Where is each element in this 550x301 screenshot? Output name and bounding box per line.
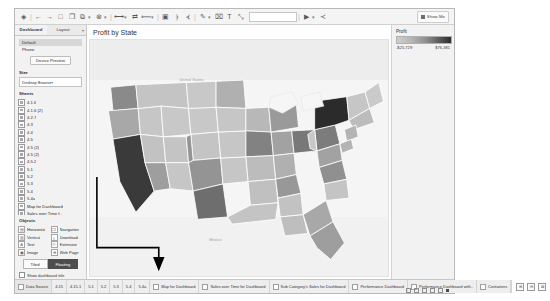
sheet-list-item-label: 5.3 (27, 181, 33, 186)
sheet-list-item[interactable]: 4.5 (18, 136, 83, 143)
object-item-image[interactable]: ▣Image (18, 248, 51, 256)
object-item-web-page[interactable]: ⊕Web Page (51, 248, 84, 256)
sheet-list-item-label: 4.4 (27, 130, 33, 135)
object-item-text[interactable]: AText (18, 241, 51, 249)
sheet-list-item-label: 4.5 (27, 137, 33, 142)
worksheet-icon (18, 144, 25, 151)
sheet-list-item[interactable]: 5.1 (18, 166, 83, 173)
sheet-list-item[interactable]: 4.1.6 (2) (18, 106, 83, 113)
object-item-label: Text (27, 242, 35, 247)
forward-arrow-icon[interactable]: → (44, 11, 55, 22)
share-icon[interactable]: ≺ (317, 11, 328, 22)
state-missouri (246, 156, 276, 182)
tiled-button[interactable]: Tiled (23, 259, 48, 269)
sort-ascending-icon[interactable]: ⦒ (171, 11, 182, 22)
sheet-list-item[interactable]: 4.3 (18, 121, 83, 128)
sheet-list-item[interactable]: 5.3 (18, 180, 83, 187)
sheet-tab-icon (480, 284, 486, 290)
highlight-icon[interactable]: ✎ (197, 11, 208, 22)
dashboard-canvas[interactable]: Profit by State (87, 25, 392, 279)
clear-sheet-icon[interactable]: ⊗ (93, 11, 104, 22)
worksheet-icon (18, 99, 25, 106)
main-toolbar: ◈ | ← → □ ❐ ⧉ ▾ ⊗ ▾ | ⟷ ▾ ⇄ ⟸ ▾ | ▣ ⦒ ⦓ … (15, 9, 454, 25)
sheet-list-item[interactable]: 5.2 (18, 173, 83, 180)
sheet-list-item[interactable]: 4.1.6 (18, 99, 83, 106)
sheet-list-item[interactable]: Map for Dashboard (18, 202, 83, 209)
text-icon: A (18, 241, 25, 248)
horizontal-container-icon: ▤ (18, 226, 25, 233)
new-worksheet-icon[interactable]: ⧉ (77, 11, 88, 22)
state-mississippi (278, 193, 303, 217)
connect-data-icon[interactable]: ❐ (66, 11, 77, 22)
sheet-list-item-label: 4.1.6 (27, 100, 36, 105)
legend-title: Profit (396, 29, 450, 34)
fix-axes-icon[interactable]: ⤡ (235, 11, 246, 22)
state-south-dakota-w (189, 107, 219, 134)
floating-button[interactable]: Floating (48, 259, 79, 269)
sheet-list-item-label: 4.5.2 (27, 159, 36, 164)
map-view[interactable]: United States Mexico (89, 39, 389, 277)
tableau-window: ◈ | ← → □ ❐ ⧉ ▾ ⊗ ▾ | ⟷ ▾ ⇄ ⟸ ▾ | ▣ ⦒ ⦓ … (14, 8, 455, 294)
sheet-tab[interactable]: Containers (477, 280, 511, 293)
sheet-list-item[interactable]: 4.5 (2) (18, 151, 83, 158)
sheet-list-item[interactable]: 4.2.7 (18, 114, 83, 121)
object-item-navigation[interactable]: ❐Navigation (51, 226, 84, 234)
device-item-default[interactable]: Default (19, 39, 82, 46)
object-item-label: Extension (60, 242, 78, 247)
new-story-icon[interactable]: ⊠ (538, 283, 546, 291)
redo-icon[interactable]: ⟸ (140, 11, 151, 22)
status-dot-5 (438, 288, 443, 293)
size-select[interactable]: Desktop Browser (1000 x 8.. ▾ (19, 77, 82, 87)
show-me-icon (421, 15, 425, 19)
state-utah (163, 137, 188, 163)
sheet-list-item[interactable]: 4.5.2 (18, 158, 83, 165)
device-preview-button[interactable]: Device Preview (30, 56, 71, 65)
tableau-logo-icon[interactable]: ◈ (18, 11, 29, 22)
sheet-list-item-label: 5.1 (27, 167, 33, 172)
object-item-horizontal[interactable]: ▤Horizontal (18, 226, 51, 234)
sheet-list-item[interactable]: 5.4a (18, 195, 83, 202)
undo-icon[interactable]: ⟷ (113, 11, 124, 22)
duplicate-icon[interactable]: ▣ (160, 11, 171, 22)
swap-rows-columns-icon[interactable]: ⇄ (129, 11, 140, 22)
dashboard-side-panel: Dashboard Layout ▾ Default Phone Device … (15, 25, 87, 279)
sheet-tab-label: Containers (488, 284, 507, 289)
group-members-icon[interactable]: ⌧ (213, 11, 224, 22)
legend-max-value: $76,381 (435, 45, 450, 50)
show-labels-icon[interactable]: T (224, 11, 235, 22)
status-dot-2 (414, 288, 419, 293)
fit-select[interactable] (249, 12, 297, 22)
status-dot-6 (446, 289, 449, 292)
device-preview-row: Device Preview (19, 56, 82, 65)
device-item-phone[interactable]: Phone (19, 46, 82, 53)
legend-panel: Profit -$25,729 $76,381 (392, 25, 454, 279)
object-item-extension[interactable]: ⚇Extension (51, 241, 84, 249)
objects-grid[interactable]: ▤Horizontal❐Navigation▥Vertical⤓Download… (15, 226, 86, 256)
show-me-button[interactable]: Show Me (417, 11, 449, 23)
panel-collapse-icon[interactable]: ▾ (79, 28, 86, 33)
presentation-mode-icon[interactable]: ▶ (301, 11, 312, 22)
sheet-list-item[interactable]: 4.5 (2) (18, 143, 83, 150)
sort-descending-icon[interactable]: ⦓ (182, 11, 193, 22)
show-dashboard-title-checkbox[interactable] (19, 272, 25, 278)
new-dashboard-icon[interactable]: ⊟ (527, 283, 535, 291)
sheet-list-item-label: Map for Dashboard (27, 204, 63, 209)
show-dashboard-title-row[interactable]: Show dashboard title (15, 271, 86, 279)
tab-layout[interactable]: Layout (47, 25, 79, 35)
sheet-list-item-label: 4.1.6 (2) (27, 108, 43, 113)
legend-gradient-bar[interactable] (396, 36, 452, 44)
tab-dashboard[interactable]: Dashboard (15, 25, 47, 35)
choropleth-map[interactable] (90, 40, 388, 276)
sheet-list-item[interactable]: 5.4 (18, 188, 83, 195)
legend-values: -$25,729 $76,381 (396, 45, 450, 50)
save-icon[interactable]: □ (55, 11, 66, 22)
state-indiana (271, 131, 294, 156)
state-wyoming (161, 106, 191, 137)
new-worksheet-icon[interactable]: ⊞ (516, 283, 524, 291)
object-item-vertical[interactable]: ▥Vertical (18, 233, 51, 241)
back-arrow-icon[interactable]: ← (33, 11, 44, 22)
object-item-download[interactable]: ⤓Download (51, 233, 84, 241)
sheet-list-item[interactable]: 4.4 (18, 129, 83, 136)
sheets-list[interactable]: 4.1.64.1.6 (2)4.2.74.34.44.54.5 (2)4.5 (… (15, 99, 86, 215)
sheet-list-item-label: 4.2.7 (27, 115, 36, 120)
